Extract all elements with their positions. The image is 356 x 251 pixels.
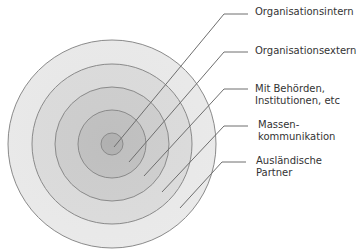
label-organisationsextern: Organisationsextern [255, 45, 356, 57]
label-line: Organisationsintern [255, 6, 354, 18]
label-auslaendische-partner: AusländischePartner [256, 155, 322, 179]
label-line: Institutionen, etc [255, 95, 340, 107]
label-line: Organisationsextern [255, 45, 356, 57]
ring-organisationsintern [101, 133, 123, 155]
label-line: Partner [256, 167, 322, 179]
label-organisationsintern: Organisationsintern [255, 6, 354, 18]
label-line: Massen- [258, 119, 335, 131]
label-line: Ausländische [256, 155, 322, 167]
label-line: kommunikation [258, 131, 335, 143]
label-massenkommunikation: Massen-kommunikation [258, 119, 335, 143]
label-line: Mit Behörden, [255, 83, 340, 95]
label-behoerden: Mit Behörden,Institutionen, etc [255, 83, 340, 107]
